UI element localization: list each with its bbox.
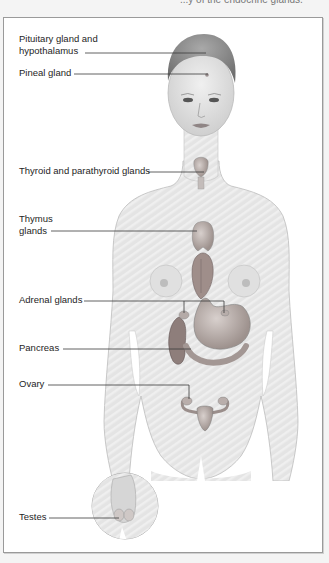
diagram-frame: Pituitary gland and hypothalamus Pineal …: [3, 17, 323, 553]
label-testes: Testes: [19, 511, 46, 523]
label-pituitary-line1: Pituitary gland and: [19, 33, 98, 45]
label-pineal: Pineal gland: [19, 67, 71, 79]
label-thymus-line1: Thymus: [19, 213, 53, 225]
label-pineal-text: Pineal gland: [19, 67, 71, 79]
label-pituitary-line2: hypothalamus: [19, 45, 98, 57]
label-thyroid-text: Thyroid and parathyroid glands: [19, 165, 150, 177]
label-ovary: Ovary: [19, 378, 44, 390]
label-thymus-line2: glands: [19, 225, 53, 237]
label-adrenal-text: Adrenal glands: [19, 294, 82, 306]
cropped-caption-text: ...y of the endocrine glands.: [180, 0, 329, 6]
label-pancreas: Pancreas: [19, 342, 59, 354]
label-pituitary: Pituitary gland and hypothalamus: [19, 33, 98, 57]
head: [168, 34, 236, 136]
label-pancreas-text: Pancreas: [19, 342, 59, 354]
label-ovary-text: Ovary: [19, 378, 44, 390]
label-thymus: Thymus glands: [19, 213, 53, 237]
endocrine-illustration: [4, 18, 322, 552]
label-adrenal: Adrenal glands: [19, 294, 82, 306]
label-testes-text: Testes: [19, 511, 46, 523]
label-thyroid: Thyroid and parathyroid glands: [19, 165, 150, 177]
